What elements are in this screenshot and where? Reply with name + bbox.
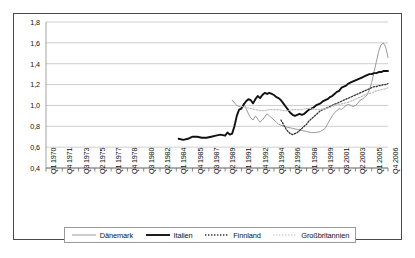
x-axis-tick-label: Q2 2003: [358, 148, 367, 174]
x-axis-tick-label: Q3 1980: [147, 148, 156, 174]
line-chart-plot: [14, 14, 401, 239]
legend-swatch: [71, 232, 97, 238]
x-axis-tick-label: Q1 1998: [310, 148, 319, 174]
x-axis-tick-label: Q1 1977: [114, 148, 123, 174]
x-axis-tick-label: Q1 1991: [244, 148, 253, 174]
x-axis-tick-label: Q3 2001: [342, 148, 351, 174]
x-axis-tick-label: Q3 1973: [82, 148, 91, 174]
x-axis-tick-label: Q4 1985: [196, 148, 205, 174]
legend-item: Dänemark: [71, 231, 133, 240]
x-axis-tick-label: Q4 2006: [391, 148, 400, 174]
x-axis-tick-label: Q2 1996: [293, 148, 302, 174]
y-axis-tick-label: 0,4: [14, 164, 40, 173]
series-line: [232, 43, 388, 133]
legend-label: Finnland: [233, 231, 261, 240]
y-axis-tick-label: 0,8: [14, 122, 40, 131]
x-axis-tick-label: Q4 1971: [65, 148, 74, 174]
x-axis-tick-label: Q4 1978: [130, 148, 139, 174]
legend-item: Italien: [145, 231, 193, 240]
legend-label: Großbritannien: [301, 231, 349, 240]
legend-label: Dänemark: [100, 231, 133, 240]
series-line: [281, 84, 388, 135]
legend-item: Finnland: [204, 231, 261, 240]
legend-label: Italien: [174, 231, 193, 240]
x-axis-tick-label: Q2 1989: [228, 148, 237, 174]
legend-swatch: [272, 232, 298, 238]
x-axis-tick-label: Q4 1999: [326, 148, 335, 174]
x-axis-tick-label: Q3 1994: [277, 148, 286, 174]
y-axis-tick-label: 0,6: [14, 143, 40, 152]
x-axis-tick-label: Q2 1982: [163, 148, 172, 174]
x-axis-tick-label: Q1 1970: [49, 148, 58, 174]
y-axis-tick-label: 1,6: [14, 39, 40, 48]
x-axis-tick-label: Q1 1984: [179, 148, 188, 174]
x-axis-tick-label: Q2 1975: [98, 148, 107, 174]
legend-swatch: [204, 232, 230, 238]
y-axis-tick-label: 1,2: [14, 80, 40, 89]
x-axis-tick-label: Q4 1992: [261, 148, 270, 174]
x-axis-tick-label: Q1 2005: [375, 148, 384, 174]
y-axis-tick-label: 1,8: [14, 18, 40, 27]
legend-item: Großbritannien: [272, 231, 349, 240]
legend-swatch: [145, 232, 171, 238]
y-axis-tick-label: 1,0: [14, 101, 40, 110]
x-axis-tick-label: Q3 1987: [212, 148, 221, 174]
chart-figure: 1,81,61,41,21,00,80,60,4 Q1 1970Q4 1971Q…: [13, 13, 402, 240]
chart-legend: DänemarkItalienFinnlandGroßbritannien: [64, 227, 356, 243]
y-axis-tick-label: 1,4: [14, 60, 40, 69]
